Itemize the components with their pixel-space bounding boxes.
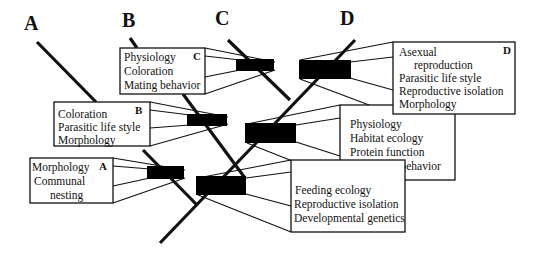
character-box-a: A Morphology Communal nesting xyxy=(30,158,113,203)
character-bar-c xyxy=(236,59,274,71)
box-a-line-3: nesting xyxy=(50,189,83,202)
branch-a-upper xyxy=(37,42,96,102)
box-a-line-1: Morphology xyxy=(32,161,90,174)
box-b-line-1: Coloration xyxy=(58,108,107,120)
box-tag-b: B xyxy=(135,104,143,116)
character-box-b: B Coloration Parasitic life style Morpho… xyxy=(54,102,150,147)
box-internal-upper-line-2: Habitat ecology xyxy=(350,132,423,145)
box-d-line-3: Parasitic life style xyxy=(399,72,481,85)
branch-b-top xyxy=(130,38,137,48)
box-d-line-4: Reproductive isolation xyxy=(399,85,504,98)
box-a-line-2: Communal xyxy=(34,175,85,187)
character-bar-internal-lower xyxy=(196,176,246,195)
box-tag-a: A xyxy=(99,160,107,172)
character-bar-d xyxy=(299,60,351,79)
box-d-line-2: reproduction xyxy=(414,59,473,72)
character-bar-b xyxy=(187,114,227,126)
character-box-d: D Asexual reproduction Parasitic life st… xyxy=(393,42,515,114)
character-bar-internal-upper xyxy=(245,123,296,143)
box-internal-lower-line-2: Reproductive isolation xyxy=(294,198,399,211)
box-internal-upper-line-1: Physiology xyxy=(350,118,402,131)
box-d-line-1: Asexual xyxy=(399,46,437,58)
box-tag-d: D xyxy=(503,44,511,56)
lineage-label-a: A xyxy=(24,12,39,34)
box-internal-lower-line-3: Developmental genetics xyxy=(294,212,405,225)
lineage-label-d: D xyxy=(340,7,354,29)
box-d-line-5: Morphology xyxy=(399,98,457,111)
box-c-line-3: Mating behavior xyxy=(124,79,200,92)
lineage-label-b: B xyxy=(122,9,135,31)
character-box-c: C Physiology Coloration Mating behavior xyxy=(120,48,205,94)
box-c-line-1: Physiology xyxy=(124,51,176,64)
box-c-line-2: Coloration xyxy=(124,65,173,77)
box-internal-upper-line-3: Protein function xyxy=(350,146,425,158)
character-bar-a xyxy=(147,166,184,179)
box-b-line-2: Parasitic life style xyxy=(58,121,140,134)
lineage-label-c: C xyxy=(215,7,229,29)
branch-b-lower xyxy=(183,94,245,178)
phylogeny-diagram: A B C D xyxy=(0,0,534,254)
box-tag-c: C xyxy=(193,50,201,62)
box-b-line-3: Morphology xyxy=(58,134,116,147)
character-box-internal-lower: Feeding ecology Reproductive isolation D… xyxy=(291,160,405,232)
box-internal-lower-line-1: Feeding ecology xyxy=(295,184,372,197)
